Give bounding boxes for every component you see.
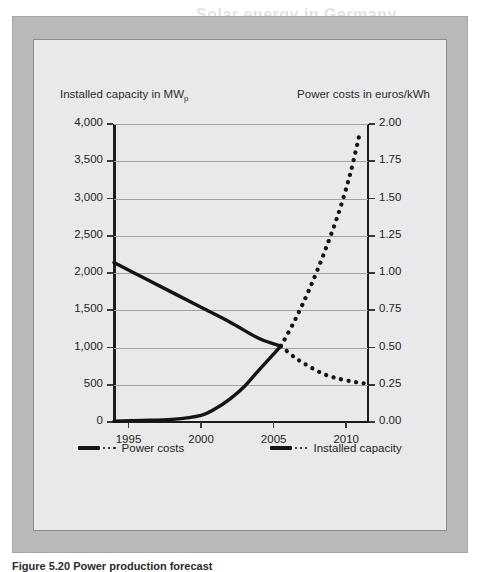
legend-dot <box>300 447 303 450</box>
plot-area: 05001,0001,5002,0002,5003,0003,5004,000 … <box>114 124 368 422</box>
legend-marker-icon <box>78 446 115 449</box>
legend-label: Power costs <box>122 442 185 454</box>
y-tick-right <box>369 421 375 423</box>
y-axis-left-label: 2,500 <box>74 228 103 240</box>
y-axis-left-label: 1,000 <box>74 340 103 352</box>
y-tick-left <box>107 160 113 162</box>
figure-frame: Installed capacity in MWp Power costs in… <box>12 16 468 553</box>
figure-caption: Figure 5.20 Power production forecast <box>12 560 474 572</box>
y-tick-left <box>107 347 113 349</box>
y-tick-left <box>107 421 113 423</box>
y-axis-right-label: 1.00 <box>379 265 401 277</box>
y-axis-left-label: 4,000 <box>74 116 103 128</box>
y-axis-right-label: 1.50 <box>379 191 401 203</box>
y-axis-left-label: 1,500 <box>74 302 103 314</box>
y-tick-right <box>369 198 375 200</box>
left-axis-title: Installed capacity in MWp <box>60 88 188 103</box>
y-tick-left <box>107 235 113 237</box>
y-axis-left-label: 0 <box>97 414 103 426</box>
y-axis-right-label: 2.00 <box>379 116 401 128</box>
y-axis-right-label: 0.50 <box>379 340 401 352</box>
y-tick-right <box>369 347 375 349</box>
legend-label: Installed capacity <box>313 442 401 454</box>
series-power-costs-forecast <box>281 346 364 383</box>
y-axis-right-label: 1.25 <box>379 228 401 240</box>
y-axis-right-label: 0.75 <box>379 302 401 314</box>
chart-panel: Installed capacity in MWp Power costs in… <box>33 39 447 531</box>
series-power-costs-historical <box>114 263 281 346</box>
legend-dot <box>103 447 106 450</box>
y-tick-right <box>369 384 375 386</box>
y-axis-right-label: 0.25 <box>379 377 401 389</box>
y-axis-left-label: 500 <box>84 377 103 389</box>
y-tick-right <box>369 235 375 237</box>
y-axis-left-label: 2,000 <box>74 265 103 277</box>
x-tick <box>273 422 275 428</box>
legend-dot <box>305 447 308 450</box>
x-tick <box>200 422 202 428</box>
y-tick-right <box>369 160 375 162</box>
legend-dot <box>113 447 116 450</box>
legend-marker-icon <box>270 446 307 449</box>
y-tick-left <box>107 272 113 274</box>
y-axis-left-label: 3,500 <box>74 153 103 165</box>
legend-dot <box>295 447 298 450</box>
y-tick-right <box>369 272 375 274</box>
legend-solid-bar <box>270 446 292 449</box>
y-tick-left <box>107 123 113 125</box>
y-tick-left <box>107 198 113 200</box>
y-axis-right-label: 0.00 <box>379 414 401 426</box>
legend-dot <box>108 447 111 450</box>
legend-item: Power costs <box>78 442 184 454</box>
x-tick <box>345 422 347 428</box>
chart-legend: Power costsInstalled capacity <box>34 442 446 454</box>
legend-item: Installed capacity <box>270 442 402 454</box>
y-axis-right-label: 1.75 <box>379 153 401 165</box>
y-tick-left <box>107 309 113 311</box>
series-installed-capacity-forecast <box>281 135 359 346</box>
y-tick-right <box>369 309 375 311</box>
series-installed-capacity-historical <box>114 346 281 421</box>
y-tick-left <box>107 384 113 386</box>
x-tick <box>128 422 130 428</box>
y-axis-left-label: 3,000 <box>74 191 103 203</box>
legend-solid-bar <box>78 446 100 449</box>
right-axis-title: Power costs in euros/kWh <box>297 88 430 100</box>
y-tick-right <box>369 123 375 125</box>
series-layer <box>114 124 368 422</box>
